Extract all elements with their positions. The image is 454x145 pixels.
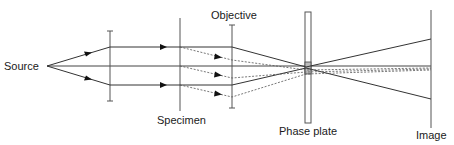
phase-plate <box>305 12 311 123</box>
phase-plate-label: Phase plate <box>279 125 337 137</box>
arrow-icon <box>214 72 222 78</box>
arrow-icon <box>84 52 92 57</box>
undiffracted-rays <box>47 39 431 99</box>
specimen-label: Specimen <box>157 114 206 126</box>
source-label: Source <box>4 60 39 72</box>
arrow-icons <box>84 44 222 97</box>
arrow-icon <box>84 76 92 81</box>
phase-contrast-diagram: Source Specimen Objective Phase plate Im… <box>0 0 454 145</box>
arrow-icon <box>160 82 167 88</box>
arrow-icon <box>160 44 167 50</box>
objective-label: Objective <box>211 9 257 21</box>
arrow-icon <box>214 91 222 97</box>
image-label: Image <box>416 129 447 141</box>
arrow-icon <box>214 54 222 60</box>
